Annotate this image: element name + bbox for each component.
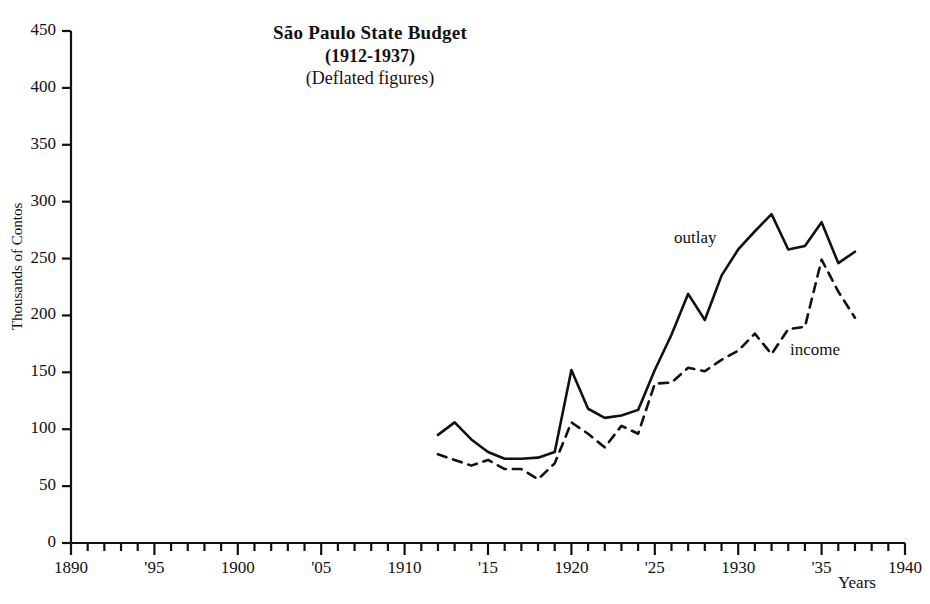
y-tick-label: 50 — [10, 475, 56, 495]
chart-title: São Paulo State Budget — [200, 22, 540, 44]
y-tick-label: 350 — [10, 134, 56, 154]
chart-plot-area — [0, 0, 930, 604]
y-tick-label: 450 — [10, 20, 56, 40]
x-tick-label: 1900 — [203, 558, 273, 578]
y-tick-label: 150 — [10, 361, 56, 381]
x-tick-label: '95 — [119, 558, 189, 578]
series-line-income — [438, 260, 855, 480]
x-tick-label: 1910 — [370, 558, 440, 578]
y-tick-label: 300 — [10, 191, 56, 211]
x-tick-label: '05 — [286, 558, 356, 578]
y-tick-label: 400 — [10, 77, 56, 97]
x-tick-label: 1890 — [36, 558, 106, 578]
x-tick-label: 1930 — [703, 558, 773, 578]
y-tick-label: 100 — [10, 418, 56, 438]
chart-title-years: (1912-1937) — [200, 46, 540, 67]
x-axis-ticks — [71, 543, 905, 555]
x-tick-label: '25 — [620, 558, 690, 578]
y-tick-label: 250 — [10, 248, 56, 268]
chart-subtitle: (Deflated figures) — [200, 68, 540, 89]
series-line-outlay — [438, 214, 855, 459]
series-label-outlay: outlay — [674, 228, 717, 248]
x-axis-label: Years — [838, 573, 918, 593]
x-tick-label: 1920 — [536, 558, 606, 578]
y-tick-label: 200 — [10, 304, 56, 324]
x-tick-label: '15 — [453, 558, 523, 578]
y-axis-ticks — [62, 31, 71, 543]
y-tick-label: 0 — [10, 532, 56, 552]
series-label-income: income — [790, 340, 840, 360]
axis-lines — [71, 31, 905, 543]
chart-figure: São Paulo State Budget (1912-1937) (Defl… — [0, 0, 930, 604]
chart-title-block: São Paulo State Budget (1912-1937) (Defl… — [200, 22, 540, 89]
